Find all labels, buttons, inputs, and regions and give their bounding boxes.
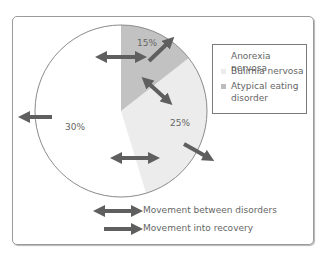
label-atypical-pct: 15%: [137, 38, 157, 48]
swatch-bulimia: [221, 69, 226, 74]
legend-label-bulimia: Bulimia nervosa: [231, 65, 304, 77]
label-bulimia-pct: 25%: [170, 118, 190, 128]
legend-label-atypical-line1: Atypical eating: [231, 81, 298, 91]
label-anorexia-pct: 30%: [65, 122, 85, 132]
legend-item-atypical: Atypical eating disorder: [221, 80, 298, 104]
flow-legend-between: Movement between disorders: [143, 205, 277, 215]
swatch-atypical: [221, 84, 226, 89]
legend-label-atypical-line2: disorder: [231, 93, 268, 103]
legend: Anorexia nervosa Bulimia nervosa Atypica…: [212, 44, 307, 114]
flow-legend-recovery: Movement into recovery: [143, 223, 253, 233]
legend-item-bulimia: Bulimia nervosa: [221, 65, 304, 77]
swatch-anorexia: [221, 54, 226, 59]
pie-chart: [0, 0, 327, 257]
legend-label-atypical: Atypical eating disorder: [231, 80, 298, 104]
